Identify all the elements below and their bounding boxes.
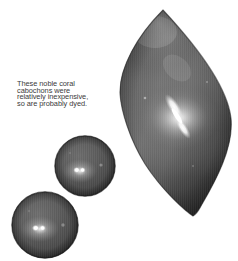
caption-text: These noble coral cabochons were relativ… — [17, 81, 113, 107]
round-cabochon-lower-left-graphic — [11, 191, 79, 259]
marquise-cabochon-graphic — [119, 6, 235, 220]
photo-canvas: These noble coral cabochons were relativ… — [0, 0, 238, 261]
marquise-cabochon — [119, 6, 235, 220]
round-cabochon-lower-left — [11, 191, 79, 259]
round-cabochon-middle — [54, 135, 116, 197]
round-cabochon-middle-graphic — [54, 135, 116, 197]
